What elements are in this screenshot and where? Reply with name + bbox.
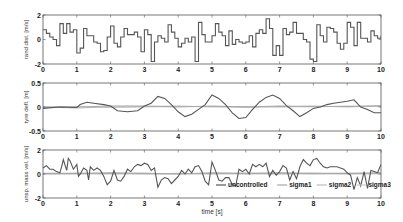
x-tick-label: 2 [109,133,113,140]
legend-label: sigma1 [289,181,312,189]
series-disturbance [43,19,381,62]
x-tick-label: 1 [75,133,79,140]
x-tick-label: 0 [41,200,45,207]
x-tick-label: 2 [109,200,113,207]
x-tick-label: 6 [244,66,248,73]
x-tick-label: 10 [377,133,385,140]
x-tick-label: 0 [41,133,45,140]
y-tick-label: -2 [35,195,41,202]
legend-label: sigma2 [329,181,352,189]
y-tick-label: 0.5 [31,80,41,87]
x-tick-label: 5 [210,66,214,73]
x-tick-label: 1 [75,200,79,207]
x-tick-label: 5 [210,133,214,140]
x-tick-label: 3 [142,200,146,207]
x-axis-label: time [s] [202,208,223,216]
y-tick-label: 0 [37,171,41,178]
x-tick-label: 9 [345,200,349,207]
y-axis-label: tyre defl. [m] [23,90,29,123]
x-tick-label: 4 [176,133,180,140]
x-tick-label: 4 [176,66,180,73]
plot-tyre-deflection: 012345678910-0.500.5tyre defl. [m] [23,80,385,141]
x-tick-label: 3 [142,66,146,73]
x-tick-label: 8 [311,200,315,207]
x-tick-label: 9 [345,66,349,73]
x-tick-label: 9 [345,133,349,140]
x-tick-label: 4 [176,200,180,207]
x-tick-label: 7 [278,200,282,207]
x-tick-label: 8 [311,66,315,73]
y-tick-label: 0 [37,104,41,111]
y-tick-label: 0 [37,36,41,43]
y-tick-label: 2 [37,147,41,154]
x-tick-label: 10 [377,200,385,207]
x-tick-label: 6 [244,133,248,140]
x-tick-label: 1 [75,66,79,73]
y-tick-label: 2 [37,12,41,19]
legend-label: uncontrolled [228,181,267,188]
x-tick-label: 2 [109,66,113,73]
legend-label: sigma3 [368,181,391,189]
x-tick-label: 0 [41,66,45,73]
y-axis-label: rand dist. [m/s] [23,20,29,60]
y-axis-label: unsp. mass vel. [m/s] [23,145,29,202]
x-tick-label: 6 [244,200,248,207]
x-tick-label: 7 [278,133,282,140]
plot-random-disturbance: 012345678910-202rand dist. [m/s] [23,12,385,74]
legend: uncontrolledsigma1sigma2sigma3 [216,181,391,189]
x-tick-label: 3 [142,133,146,140]
y-tick-label: -2 [35,61,41,68]
y-tick-label: -0.5 [29,128,41,135]
x-tick-label: 10 [377,66,385,73]
x-tick-label: 7 [278,66,282,73]
x-tick-label: 5 [210,200,214,207]
figure: 012345678910-202rand dist. [m/s] 0123456… [0,0,403,222]
x-tick-label: 8 [311,133,315,140]
